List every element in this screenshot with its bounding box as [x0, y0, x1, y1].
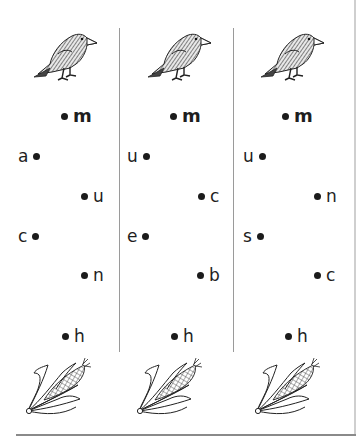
dot-icon[interactable] — [33, 153, 40, 160]
dot-point[interactable]: c — [198, 187, 219, 205]
corn-icon — [133, 355, 205, 417]
dot-point[interactable]: h — [285, 327, 308, 345]
crow-icon — [144, 24, 214, 86]
dot-icon[interactable] — [285, 333, 292, 340]
dot-icon[interactable] — [81, 193, 88, 200]
dot-icon[interactable] — [314, 193, 321, 200]
dot-point[interactable]: b — [197, 266, 220, 284]
dot-icon[interactable] — [143, 153, 150, 160]
corn-icon — [251, 355, 323, 417]
crow-icon — [257, 24, 327, 86]
dot-point[interactable]: c — [18, 227, 39, 245]
dot-point[interactable]: m — [61, 107, 92, 125]
dot-point[interactable]: h — [62, 327, 85, 345]
dot-point[interactable]: a — [18, 147, 40, 165]
corn-icon — [22, 355, 94, 417]
dot-icon[interactable] — [198, 193, 205, 200]
dot-point[interactable]: h — [171, 327, 194, 345]
dot-point[interactable]: u — [127, 147, 150, 165]
crow-icon — [30, 24, 100, 86]
dot-icon[interactable] — [314, 272, 321, 279]
puzzle-column-2: m u c e b h — [114, 0, 228, 437]
dot-icon[interactable] — [32, 233, 39, 240]
dot-point[interactable]: n — [314, 187, 337, 205]
dot-icon[interactable] — [62, 333, 69, 340]
dot-icon[interactable] — [81, 272, 88, 279]
dot-icon[interactable] — [259, 153, 266, 160]
dot-point[interactable]: c — [314, 266, 335, 284]
dot-icon[interactable] — [282, 113, 289, 120]
dot-point[interactable]: n — [81, 266, 104, 284]
dot-point[interactable]: m — [170, 107, 201, 125]
dot-icon[interactable] — [171, 333, 178, 340]
dot-point[interactable]: u — [243, 147, 266, 165]
dot-icon[interactable] — [257, 233, 264, 240]
puzzle-column-3: m u n s c h — [228, 0, 342, 437]
dot-icon[interactable] — [142, 233, 149, 240]
dot-point[interactable]: s — [243, 227, 264, 245]
worksheet: m a u c n h m u c e b h m u n s c h — [0, 0, 356, 437]
puzzle-column-1: m a u c n h — [0, 0, 114, 437]
dot-point[interactable]: u — [81, 187, 104, 205]
dot-icon[interactable] — [61, 113, 68, 120]
dot-icon[interactable] — [197, 272, 204, 279]
dot-icon[interactable] — [170, 113, 177, 120]
dot-point[interactable]: m — [282, 107, 313, 125]
dot-point[interactable]: e — [127, 227, 149, 245]
